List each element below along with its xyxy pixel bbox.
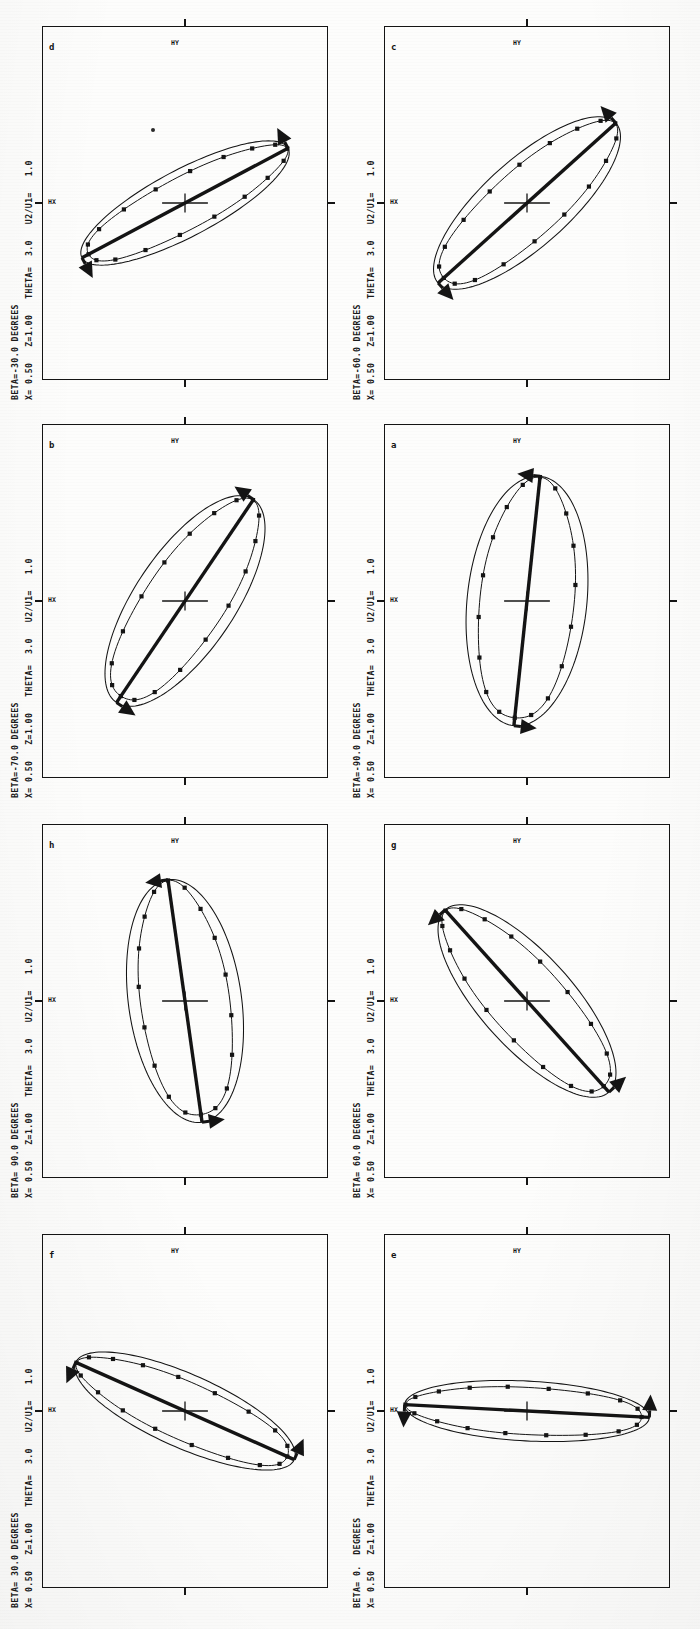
data-point-marker (635, 1423, 639, 1427)
data-point-marker (435, 1419, 439, 1423)
data-point-marker (226, 1456, 230, 1460)
major-axis-bar (438, 123, 616, 283)
data-point-marker (183, 1110, 187, 1114)
data-point-marker (183, 886, 187, 890)
data-point-marker (121, 1408, 125, 1412)
data-point-marker (121, 629, 125, 633)
figure-page: BETA=-30.0 DEGREESX= 0.50 Z=1.00 THETA= … (0, 0, 700, 1629)
data-point-marker (137, 946, 141, 950)
data-point-marker (230, 1053, 234, 1057)
plot-panel-e: BETA= 0. DEGREESX= 0.50 Z=1.00 THETA= 3.… (350, 1222, 692, 1620)
data-point-marker (167, 1095, 171, 1099)
data-point-marker (413, 1395, 417, 1399)
data-point-marker (122, 207, 126, 211)
data-point-marker (481, 573, 485, 577)
data-point-marker (188, 532, 192, 536)
arrowhead-end-hook (73, 1362, 76, 1368)
panel-header-params: X= 0.50 Z=1.00 THETA= 3.0 U2/U1= 1.0 (24, 958, 34, 1198)
data-point-marker (503, 1431, 507, 1435)
data-point-marker (443, 245, 447, 249)
data-point-marker (142, 1025, 146, 1029)
panel-header-beta: BETA=-60.0 DEGREES (352, 304, 362, 400)
data-point-marker (573, 583, 577, 587)
data-point-marker (617, 1429, 621, 1433)
arrowhead-end-hook (440, 910, 445, 915)
arrowhead-start-hook (438, 283, 443, 288)
axis-tick-right (184, 19, 186, 26)
data-point-marker (221, 155, 225, 159)
arrowhead-end-hook (161, 880, 168, 881)
data-point-marker (459, 907, 463, 911)
data-point-marker (483, 917, 487, 921)
arrowhead-start (642, 1394, 657, 1410)
panel-header-params: X= 0.50 Z=1.00 THETA= 3.0 U2/U1= 1.0 (366, 558, 376, 798)
axis-tick-top (35, 1000, 42, 1002)
plot-panel-c: BETA=-60.0 DEGREESX= 0.50 Z=1.00 THETA= … (350, 14, 692, 412)
data-point-marker (614, 136, 618, 140)
data-point-marker (243, 195, 247, 199)
panel-header-beta: BETA= 60.0 DEGREES (352, 1102, 362, 1198)
axis-tick-left (526, 778, 528, 785)
data-point-marker (97, 227, 101, 231)
arrowhead-start-hook (294, 1453, 297, 1459)
arrowhead-end-hook (248, 496, 254, 500)
axis-tick-right (184, 1227, 186, 1234)
data-point-marker (198, 907, 202, 911)
axis-tick-top (35, 1410, 42, 1412)
axis-tick-right (526, 817, 528, 824)
data-point-marker (247, 1410, 251, 1414)
major-axis-bar (116, 499, 253, 702)
data-point-marker (188, 169, 192, 173)
axis-tick-left (184, 1178, 186, 1185)
data-point-marker (512, 1038, 516, 1042)
arrowhead-start-hook (609, 1087, 614, 1092)
hodograph-drawing (42, 824, 328, 1178)
data-point-marker (213, 936, 217, 940)
panel-rotated-canvas: BETA=-60.0 DEGREESX= 0.50 Z=1.00 THETA= … (350, 14, 680, 402)
axis-tick-bottom (328, 1410, 335, 1412)
data-point-marker (587, 184, 591, 188)
data-point-marker (618, 1398, 622, 1402)
data-point-marker (477, 615, 481, 619)
data-point-marker (412, 1411, 416, 1415)
data-point-marker (547, 1387, 551, 1391)
data-point-marker (468, 1386, 472, 1390)
data-point-marker (154, 187, 158, 191)
data-point-marker (546, 696, 550, 700)
panel-header-beta: BETA=-90.0 DEGREES (352, 702, 362, 798)
axis-tick-bottom (328, 600, 335, 602)
data-point-marker (152, 890, 156, 894)
data-point-marker (139, 594, 143, 598)
data-point-marker (605, 1051, 609, 1055)
data-point-marker (212, 511, 216, 515)
data-point-marker (564, 511, 568, 515)
arrowhead-start (118, 700, 135, 715)
arrowhead-start-hook (514, 726, 521, 727)
data-point-marker (110, 683, 114, 687)
data-point-marker (213, 1391, 217, 1395)
panel-rotated-canvas: BETA=-30.0 DEGREESX= 0.50 Z=1.00 THETA= … (8, 14, 338, 402)
data-point-marker (477, 655, 481, 659)
data-point-marker (285, 1444, 289, 1448)
data-point-marker (521, 483, 525, 487)
axis-tick-right (184, 417, 186, 424)
data-point-marker (87, 1355, 91, 1359)
panel-header-beta: BETA=-30.0 DEGREES (10, 304, 20, 400)
axis-tick-right (526, 1227, 528, 1234)
hodograph-drawing (384, 26, 670, 380)
axis-tick-left (184, 380, 186, 387)
data-point-marker (548, 141, 552, 145)
hodograph-drawing (42, 26, 328, 380)
data-point-marker (553, 486, 557, 490)
data-point-marker (453, 282, 457, 286)
data-point-marker (541, 1065, 545, 1069)
data-point-marker (204, 638, 208, 642)
data-point-marker (257, 513, 261, 517)
data-point-marker (506, 1385, 510, 1389)
data-point-marker (162, 560, 166, 564)
data-point-marker (244, 569, 248, 573)
plot-panel-h: BETA= 90.0 DEGREESX= 0.50 Z=1.00 THETA= … (8, 812, 350, 1210)
data-point-marker (604, 159, 608, 163)
arrowhead-end-hook (285, 142, 288, 148)
data-point-marker (266, 176, 270, 180)
